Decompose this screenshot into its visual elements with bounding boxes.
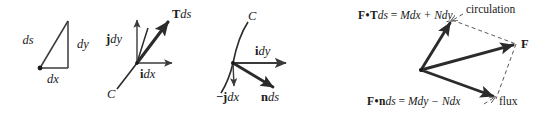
label-flux-F: F (367, 95, 374, 107)
circulation-flux-origin-dot (419, 68, 423, 72)
circulation-flux-vectors (419, 14, 516, 104)
label-flux-annotation: flux (499, 95, 518, 107)
label-flux-eq: = (396, 95, 408, 107)
dashed-circulation-to-f (452, 20, 516, 44)
label-field-vector-f: F (521, 37, 529, 51)
label-circulation-annotation: circulation (466, 3, 515, 15)
vector-flux-arrow (421, 70, 493, 96)
figure-root: ds dy dx jdy idx Tds C (0, 0, 545, 114)
label-circ-dot: • (366, 9, 370, 21)
panel-circulation-flux: F•Tds = Mdx + Ndy circulation F•nds = Md… (0, 0, 545, 114)
label-circulation-expression: F•Tds = Mdx + Ndy (358, 9, 454, 22)
label-flux-ds: ds (385, 95, 396, 107)
label-flux-dot: • (375, 95, 379, 107)
label-circ-F: F (358, 9, 365, 21)
dashed-f-to-flux (496, 44, 516, 99)
dashed-flux-annotation-leader (484, 97, 495, 104)
label-flux-expression: F•nds = Mdy − Ndx (367, 95, 461, 108)
label-flux-rhs: Mdy − Ndx (407, 95, 461, 108)
label-circ-ds: ds (378, 9, 389, 21)
label-circ-eq: = (388, 9, 400, 21)
label-circ-rhs: Mdx + Ndy (399, 9, 453, 22)
